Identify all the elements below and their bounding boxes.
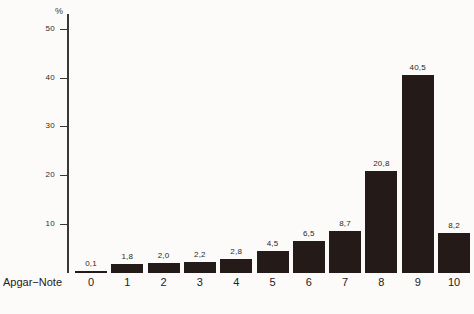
plot-area: 0,11,82,02,22,84,56,58,720,840,58,2 [69, 14, 468, 273]
x-axis-tick-label: 3 [182, 277, 218, 288]
y-axis-tick-label: 10 [33, 220, 55, 228]
bar [184, 262, 216, 273]
y-axis-tick [60, 175, 69, 176]
bar [365, 171, 397, 273]
x-axis-tick-label: 8 [363, 277, 399, 288]
bar-value-label: 20,8 [363, 160, 399, 168]
x-axis-tick-label: 9 [400, 277, 436, 288]
y-axis-tick [60, 78, 69, 79]
bar [220, 259, 252, 273]
bar [257, 251, 289, 273]
y-axis-tick-label: 50 [33, 25, 55, 33]
bar [111, 264, 143, 273]
x-axis-tick-label: 2 [146, 277, 182, 288]
bar-value-label: 0,1 [73, 260, 109, 268]
bar [293, 241, 325, 273]
x-axis-tick-label: 0 [73, 277, 109, 288]
bar-value-label: 40,5 [400, 64, 436, 72]
x-axis-tick-label: 6 [291, 277, 327, 288]
bar-value-label: 6,5 [291, 230, 327, 238]
x-axis-tick-label: 5 [255, 277, 291, 288]
bar [438, 233, 470, 273]
bar-value-label: 8,7 [327, 220, 363, 228]
y-axis-tick [60, 224, 69, 225]
y-axis-tick-label: 20 [33, 171, 55, 179]
bar-value-label: 8,2 [436, 222, 472, 230]
bar [75, 271, 107, 273]
bar-value-label: 2,2 [182, 251, 218, 259]
x-axis-tick-label: 1 [109, 277, 145, 288]
bar [402, 75, 434, 273]
bar-value-label: 2,8 [218, 248, 254, 256]
x-axis-tick-label: 4 [218, 277, 254, 288]
bar-value-label: 4,5 [255, 240, 291, 248]
y-axis-tick [60, 126, 69, 127]
x-axis-tick-label: 10 [436, 277, 472, 288]
bar [329, 231, 361, 274]
x-axis-tick-label: 7 [327, 277, 363, 288]
y-axis-unit-label: % [55, 7, 63, 16]
bar-value-label: 1,8 [109, 253, 145, 261]
bar [148, 263, 180, 273]
y-axis-tick-label: 40 [33, 74, 55, 82]
y-axis-tick [60, 29, 69, 30]
bar-value-label: 2,0 [146, 252, 182, 260]
x-axis-title: Apgar−Note [3, 277, 62, 288]
y-axis-tick-label: 30 [33, 122, 55, 130]
x-axis-tick-labels: 012345678910 [69, 277, 468, 297]
bar-chart: % 1020304050 0,11,82,02,22,84,56,58,720,… [0, 0, 474, 314]
